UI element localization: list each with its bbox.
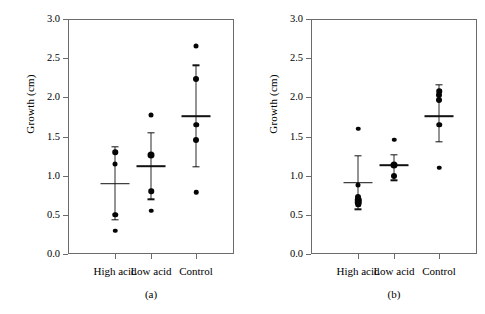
data-point — [436, 97, 442, 103]
panel-caption-a: (a) — [101, 288, 201, 300]
data-layer-a — [0, 0, 242, 314]
data-point — [194, 43, 199, 48]
error-bar-cap — [148, 198, 155, 199]
data-point — [149, 112, 154, 117]
data-point — [391, 162, 398, 169]
data-point — [356, 183, 361, 188]
error-bar-cap — [193, 166, 200, 167]
error-bar-cap — [436, 84, 443, 85]
error-bar-cap — [436, 141, 443, 142]
panel-caption-b: (b) — [344, 288, 444, 300]
error-bar-cap — [391, 180, 398, 181]
data-layer-b — [243, 0, 485, 314]
data-point — [193, 76, 199, 82]
data-point — [436, 122, 442, 128]
panel-a: Growth (cm) 0.00.51.01.52.02.53.0High ac… — [0, 0, 242, 314]
mean-marker — [182, 115, 211, 117]
data-point — [355, 202, 361, 208]
data-point — [149, 209, 154, 214]
error-bar-cap — [355, 155, 362, 156]
data-point — [112, 212, 118, 218]
figure-container: Growth (cm) 0.00.51.01.52.02.53.0High ac… — [0, 0, 485, 314]
data-point — [194, 190, 199, 195]
data-point — [391, 173, 397, 179]
data-point — [148, 152, 155, 159]
error-bar-cap — [193, 65, 200, 66]
error-bar-cap — [355, 209, 362, 210]
data-point — [113, 228, 118, 233]
data-point — [437, 166, 442, 171]
error-bar-cap — [148, 132, 155, 133]
data-point — [193, 122, 199, 128]
error-bar-cap — [391, 154, 398, 155]
panel-b: Growth (cm) 0.00.51.01.52.02.53.0High ac… — [243, 0, 485, 314]
error-bar-cap — [112, 146, 119, 147]
data-point — [392, 137, 397, 142]
mean-marker — [137, 165, 166, 167]
error-bar-cap — [112, 219, 119, 220]
data-point — [148, 189, 154, 195]
data-point — [113, 161, 118, 166]
data-point — [193, 137, 199, 143]
data-point — [112, 149, 118, 155]
mean-marker — [425, 115, 454, 117]
mean-marker — [101, 183, 130, 185]
data-point — [356, 126, 361, 131]
